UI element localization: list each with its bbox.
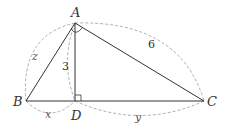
measure-dc: y <box>134 111 142 124</box>
measure-bd: x <box>45 108 52 121</box>
triangle-diagram: A B C D 6 3 z x y <box>0 0 228 132</box>
measure-arcs <box>25 23 204 116</box>
side-ac <box>75 23 204 101</box>
label-b: B <box>12 94 23 109</box>
measure-ad: 3 <box>62 60 69 73</box>
right-angle-markers <box>71 28 82 101</box>
label-d: D <box>70 108 82 123</box>
right-angle-d-icon <box>75 95 81 101</box>
label-a: A <box>70 5 80 20</box>
measure-ac: 6 <box>148 38 155 51</box>
triangle-sides <box>26 23 204 101</box>
measure-ab: z <box>31 50 38 63</box>
label-c: C <box>207 94 217 109</box>
